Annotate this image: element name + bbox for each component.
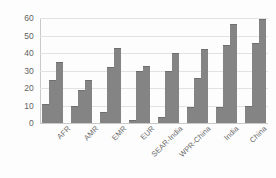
- bar-group-wpr-china: [187, 18, 208, 123]
- bar-india-3: [230, 24, 237, 123]
- bar-emr-3: [114, 48, 121, 123]
- bar-afr-1: [42, 104, 49, 123]
- x-tick-india: India: [222, 124, 240, 142]
- bar-group-amr: [71, 18, 92, 123]
- bar-wpr-china-2: [194, 78, 201, 123]
- bar-china-2: [252, 43, 259, 124]
- bar-eur-1: [129, 120, 136, 123]
- bar-group-afr: [42, 18, 63, 123]
- x-tick-emr: EMR: [110, 124, 128, 142]
- x-tick-eur: EUR: [139, 124, 157, 142]
- bar-emr-1: [100, 112, 107, 123]
- y-axis-tick-labels: 0 10 20 30 40 50 60: [0, 0, 38, 178]
- bar-wpr-china-3: [201, 49, 208, 123]
- y-tick-50: 50: [24, 31, 34, 41]
- y-tick-60: 60: [24, 13, 34, 23]
- bar-group-india: [216, 18, 237, 123]
- bar-china-1: [245, 106, 252, 124]
- bar-amr-3: [85, 80, 92, 123]
- bar-group-china: [245, 18, 266, 123]
- x-tick-china: China: [248, 124, 269, 145]
- bar-china-3: [259, 19, 266, 123]
- bar-group-emr: [100, 18, 121, 123]
- bar-eur-3: [143, 66, 150, 123]
- y-tick-40: 40: [24, 48, 34, 58]
- y-tick-0: 0: [29, 118, 34, 128]
- bar-eur-2: [136, 71, 143, 124]
- x-tick-afr: AFR: [55, 124, 72, 141]
- bar-group-eur: [129, 18, 150, 123]
- bar-groups: [40, 18, 268, 123]
- x-tick-amr: AMR: [82, 124, 100, 142]
- bar-sear-india-2: [165, 71, 172, 124]
- bar-amr-1: [71, 106, 78, 123]
- bar-india-2: [223, 45, 230, 123]
- bar-sear-india-1: [158, 117, 165, 123]
- bar-india-1: [216, 107, 223, 123]
- y-tick-30: 30: [24, 66, 34, 76]
- bar-sear-india-3: [172, 53, 179, 123]
- x-axis-tick-labels: AFR AMR EMR EUR SEAR-India WPR-China Ind…: [40, 124, 268, 178]
- y-tick-10: 10: [24, 101, 34, 111]
- bar-amr-2: [78, 90, 85, 123]
- bar-emr-2: [107, 67, 114, 123]
- plot-area: [40, 18, 268, 123]
- bar-group-sear-india: [158, 18, 179, 123]
- bar-wpr-china-1: [187, 107, 194, 123]
- bar-afr-2: [49, 80, 56, 123]
- bar-chart: 0 10 20 30 40 50 60: [0, 0, 276, 178]
- y-tick-20: 20: [24, 83, 34, 93]
- bar-afr-3: [56, 62, 63, 123]
